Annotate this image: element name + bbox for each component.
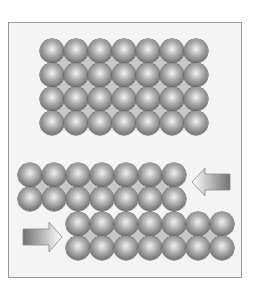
atom <box>184 111 208 135</box>
atom <box>162 163 186 187</box>
atom <box>90 187 114 211</box>
atom <box>64 63 88 87</box>
atom <box>64 87 88 111</box>
atom <box>136 111 160 135</box>
atom <box>138 163 162 187</box>
atom <box>42 163 66 187</box>
atom <box>40 111 64 135</box>
atom <box>210 236 234 260</box>
atom <box>42 187 66 211</box>
atom <box>184 39 208 63</box>
right-arrow-icon <box>22 220 64 254</box>
atom <box>90 212 114 236</box>
atom <box>40 63 64 87</box>
atom <box>112 87 136 111</box>
atom <box>112 63 136 87</box>
atom <box>66 236 90 260</box>
atom <box>114 187 138 211</box>
atom <box>136 39 160 63</box>
atom <box>66 212 90 236</box>
atom <box>160 87 184 111</box>
atom <box>90 163 114 187</box>
atom <box>112 111 136 135</box>
atom <box>186 236 210 260</box>
lower-sheared-block <box>66 212 234 260</box>
atom <box>184 87 208 111</box>
atom <box>186 212 210 236</box>
upper-sheared-block <box>18 163 186 211</box>
atom <box>40 87 64 111</box>
atom <box>160 63 184 87</box>
atom <box>90 236 114 260</box>
atom <box>160 111 184 135</box>
atom <box>138 212 162 236</box>
atom <box>40 39 64 63</box>
atom <box>138 236 162 260</box>
atom <box>88 87 112 111</box>
atom <box>18 187 42 211</box>
atom <box>88 39 112 63</box>
atom <box>160 39 184 63</box>
atom <box>136 87 160 111</box>
atom <box>64 111 88 135</box>
atom <box>64 39 88 63</box>
atom <box>18 163 42 187</box>
atom <box>138 187 162 211</box>
atom <box>210 212 234 236</box>
atom <box>114 163 138 187</box>
perfect-lattice <box>40 39 208 135</box>
atom <box>88 63 112 87</box>
atom <box>88 111 112 135</box>
atom <box>114 212 138 236</box>
left-arrow-icon <box>190 166 232 198</box>
atom <box>162 212 186 236</box>
atom <box>136 63 160 87</box>
atom <box>112 39 136 63</box>
atom <box>114 236 138 260</box>
atom <box>162 187 186 211</box>
atom <box>162 236 186 260</box>
atom <box>66 163 90 187</box>
atom <box>184 63 208 87</box>
atom <box>66 187 90 211</box>
